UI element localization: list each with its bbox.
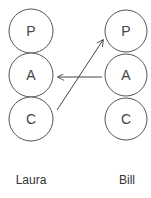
laura-child-state: C [9,97,53,141]
laura-name-label: Laura [1,173,61,187]
laura-ego-states: P A C [9,9,53,141]
bill-parent-state: P [105,10,147,52]
bill-adult-label: A [121,67,131,83]
bill-parent-label: P [121,23,130,39]
bill-adult-state: A [105,54,147,96]
laura-parent-state: P [9,9,53,53]
laura-parent-label: P [26,23,35,39]
bill-ego-states: P A C [105,10,147,140]
bill-child-state: C [105,98,147,140]
laura-adult-state: A [9,53,53,97]
ta-diagram: P A C P A C [0,0,151,198]
laura-adult-label: A [26,67,36,83]
laura-child-label: C [26,111,36,127]
bill-child-label: C [121,111,131,127]
bill-name-label: Bill [97,173,151,187]
transaction-arrow-laura-child-to-bill-parent [57,40,103,110]
